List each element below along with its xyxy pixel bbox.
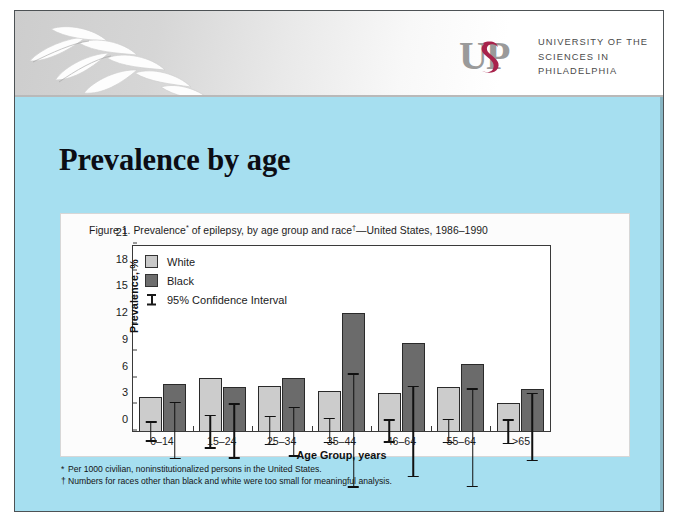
bar-group: [193, 246, 253, 431]
bar-white: [437, 387, 460, 431]
chart-plot-area: Prevalence, % 036912151821 White Black: [132, 245, 551, 432]
usp-monogram-icon: U P: [459, 33, 525, 79]
bar-white: [318, 391, 341, 431]
page-title: Prevalence by age: [59, 143, 291, 178]
bar-black: [282, 378, 305, 431]
bar-group: [371, 246, 431, 431]
brand-logo: U P UNIVERSITY OF THE SCIENCES IN PHILAD…: [459, 33, 648, 79]
y-axis-tick-label: 15: [116, 279, 128, 291]
footnote-2: †Numbers for races other than black and …: [61, 475, 629, 487]
slide-header-band: U P UNIVERSITY OF THE SCIENCES IN PHILAD…: [15, 11, 663, 96]
bar-white: [258, 386, 281, 431]
slide-body: Prevalence by age Figure 1. Prevalence* …: [15, 97, 663, 512]
x-axis-tick-label: 15–24: [192, 435, 252, 447]
svg-text:U: U: [459, 33, 488, 78]
laurel-branch-icon: [14, 10, 226, 107]
institution-line-2: SCIENCES IN: [538, 50, 648, 65]
x-axis-label: Age Group, years: [132, 449, 551, 461]
bar-black: [223, 387, 246, 431]
bar-white: [139, 397, 162, 431]
institution-name: UNIVERSITY OF THE SCIENCES IN PHILADELPH…: [538, 33, 648, 79]
bar-group: [252, 246, 312, 431]
slide-canvas: U P UNIVERSITY OF THE SCIENCES IN PHILAD…: [0, 0, 678, 525]
y-axis-tick-label: 18: [116, 253, 128, 265]
figure-caption-middle: of epilepsy, by age group and race: [189, 225, 352, 236]
x-axis-tick-label: 0–14: [132, 435, 192, 447]
y-axis-tick-label: 12: [116, 306, 128, 318]
x-axis-tick-label: >65: [491, 435, 551, 447]
bar-black: [402, 343, 425, 431]
bar-black: [461, 364, 484, 431]
x-axis-tick-label: 55–64: [431, 435, 491, 447]
figure-caption: Figure 1. Prevalence* of epilepsy, by ag…: [89, 223, 488, 236]
bar-black: [163, 384, 186, 431]
footnote-1: *Per 1000 civilian, noninstitutionalized…: [61, 463, 629, 475]
institution-line-1: UNIVERSITY OF THE: [538, 35, 648, 50]
bar-white: [497, 403, 520, 431]
x-axis-tick-label: 25–34: [252, 435, 312, 447]
y-axis-tick-label: 6: [122, 360, 128, 372]
bar-white: [378, 393, 401, 431]
bar-black: [521, 389, 544, 431]
figure-panel: Figure 1. Prevalence* of epilepsy, by ag…: [61, 214, 629, 456]
bar-group: [133, 246, 193, 431]
slide-frame: U P UNIVERSITY OF THE SCIENCES IN PHILAD…: [14, 10, 664, 512]
y-axis-tick-mark: [133, 243, 137, 244]
figure-footnotes: *Per 1000 civilian, noninstitutionalized…: [61, 463, 629, 488]
bar-group: [431, 246, 491, 431]
footnote-2-text: Numbers for races other than black and w…: [68, 476, 392, 486]
footnote-1-text: Per 1000 civilian, noninstitutionalized …: [68, 464, 322, 474]
bar-group: [312, 246, 372, 431]
x-axis-ticks: 0–1415–2425–3435–4446–6455–64>65: [132, 435, 551, 447]
chart-bar-groups: [133, 246, 550, 431]
institution-line-3: PHILADELPHIA: [538, 64, 648, 79]
footnote-2-marker: †: [61, 475, 68, 487]
y-axis-tick-label: 21: [116, 226, 128, 238]
y-axis-tick-label: 0: [122, 413, 128, 425]
bar-white: [199, 378, 222, 431]
y-axis-tick-label: 9: [122, 333, 128, 345]
figure-caption-suffix: —United States, 1986–1990: [356, 225, 488, 236]
footnote-1-marker: *: [61, 463, 68, 475]
x-axis-tick-label: 35–44: [312, 435, 372, 447]
bar-group: [490, 246, 550, 431]
bar-black: [342, 313, 365, 431]
y-axis-tick-label: 3: [122, 386, 128, 398]
figure-caption-prefix: Figure 1. Prevalence: [89, 225, 186, 236]
x-axis-tick-label: 46–64: [371, 435, 431, 447]
